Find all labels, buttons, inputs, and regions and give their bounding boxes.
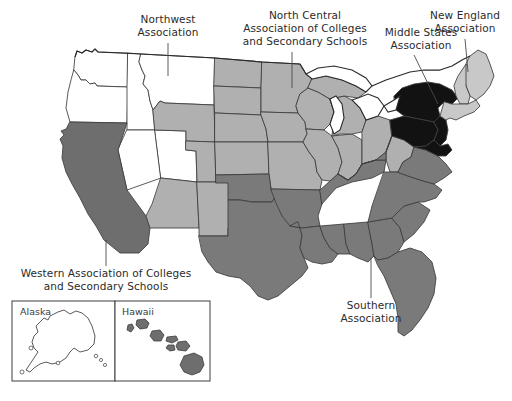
state-iowa bbox=[261, 112, 307, 142]
label-north-central-line1: North Central bbox=[269, 9, 341, 21]
hawaii-island-big-island bbox=[180, 353, 204, 375]
label-northwest-line1: Northwest bbox=[141, 13, 196, 25]
label-southern-line2: Association bbox=[341, 312, 402, 324]
alaska-island-3 bbox=[56, 361, 60, 365]
inset-hawaii-label: Hawaii bbox=[122, 306, 154, 317]
inset-alaska-label: Alaska bbox=[20, 306, 51, 317]
alaska-island-5 bbox=[99, 358, 102, 361]
us-accreditation-map: Northwest Association North Central Asso… bbox=[0, 0, 512, 401]
label-middle-states-line1: Middle States bbox=[385, 26, 458, 38]
state-arizona bbox=[146, 178, 199, 228]
label-western-line1: Western Association of Colleges bbox=[21, 267, 192, 279]
label-north-central-line3: and Secondary Schools bbox=[243, 35, 367, 47]
label-western-line2: and Secondary Schools bbox=[44, 280, 168, 292]
label-southern-line1: Southern bbox=[347, 299, 396, 311]
label-north-central-line2: Association of Colleges bbox=[243, 22, 367, 34]
inset-hawaii: Hawaii bbox=[115, 301, 210, 381]
label-northwest-line2: Association bbox=[138, 26, 199, 38]
state-kansas bbox=[215, 142, 269, 175]
label-western-association: Western Association of Colleges and Seco… bbox=[21, 240, 192, 292]
hawaii-island-kauai bbox=[136, 319, 149, 329]
state-north-dakota bbox=[214, 58, 262, 88]
state-south-dakota bbox=[214, 86, 261, 115]
label-new-england-line1: New England bbox=[430, 9, 500, 21]
alaska-island-6 bbox=[103, 363, 106, 366]
label-middle-states-line2: Association bbox=[391, 39, 452, 51]
alaska-island-2 bbox=[20, 370, 24, 374]
us-border-east-outline bbox=[372, 56, 470, 86]
inset-alaska: Alaska bbox=[12, 301, 115, 381]
alaska-island-1 bbox=[29, 346, 33, 350]
state-nebraska bbox=[215, 113, 268, 142]
state-montana bbox=[139, 54, 215, 110]
alaska-island-4 bbox=[94, 354, 98, 358]
map-figure: Northwest Association North Central Asso… bbox=[0, 0, 512, 401]
